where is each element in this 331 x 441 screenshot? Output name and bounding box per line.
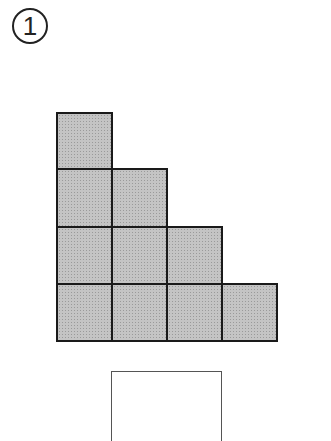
square [221,283,278,342]
square [166,283,223,342]
square [56,112,113,170]
answer-box[interactable] [111,371,222,441]
problem-number: 1 [23,13,37,39]
square [111,283,168,342]
square [111,226,168,285]
problem-number-badge: 1 [12,8,48,44]
square [56,168,113,228]
square [166,226,223,285]
square [56,283,113,342]
square [56,226,113,285]
square [111,168,168,228]
